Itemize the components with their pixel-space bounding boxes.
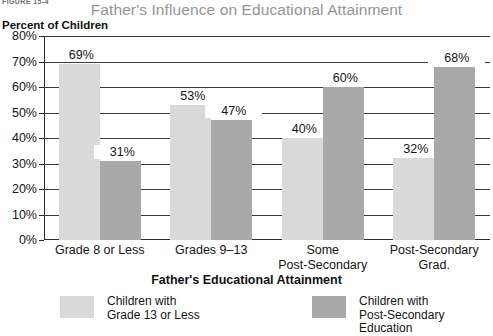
y-axis-tick-label: 30% — [12, 157, 37, 171]
gridline — [44, 138, 490, 139]
bar[interactable] — [282, 138, 323, 240]
bar[interactable] — [170, 105, 211, 240]
gridline — [44, 62, 490, 63]
y-axis-tick-mark — [39, 164, 44, 165]
x-axis-title: Father's Educational Attainment — [0, 273, 493, 287]
chart-legend: Children with Grade 13 or LessChildren w… — [0, 295, 493, 329]
y-axis-tick-mark — [39, 113, 44, 114]
y-axis-tick-label: 20% — [12, 182, 37, 196]
legend-color-swatch — [312, 296, 346, 318]
legend-label: Children with Grade 13 or Less — [107, 295, 200, 322]
y-axis-tick-label: 40% — [12, 131, 37, 145]
y-axis-tick-mark — [39, 36, 44, 37]
bar[interactable] — [393, 158, 434, 240]
plot-area: 80%70%60%50%40%30%20%10%0% 69%31%53%47%4… — [44, 36, 490, 240]
x-axis-category-label: Post-Secondary Grad. — [364, 243, 493, 272]
y-axis-tick-label: 70% — [12, 55, 37, 69]
y-axis-tick-label: 10% — [12, 208, 37, 222]
y-axis-tick-label: 50% — [12, 106, 37, 120]
bar-value-label: 53% — [164, 89, 221, 103]
gridline — [44, 36, 490, 37]
y-axis-tick-mark — [39, 62, 44, 63]
bar[interactable] — [100, 161, 141, 240]
bar[interactable] — [323, 87, 364, 240]
bar-value-label: 31% — [94, 145, 151, 159]
y-axis-tick-mark — [39, 87, 44, 88]
bar-value-label: 47% — [205, 104, 262, 118]
y-axis-tick-label: 60% — [12, 80, 37, 94]
y-axis-tick-label: 80% — [12, 29, 37, 43]
chart-title: Father's Influence on Educational Attain… — [0, 1, 493, 19]
bar[interactable] — [211, 120, 252, 240]
gridline — [44, 87, 490, 88]
legend-label: Children with Post-Secondary Education — [359, 295, 493, 336]
y-axis-tick-mark — [39, 138, 44, 139]
gridline — [44, 113, 490, 114]
bar-value-label: 68% — [428, 51, 485, 65]
bar[interactable] — [434, 67, 475, 240]
y-axis-tick-mark — [39, 240, 44, 241]
legend-item[interactable]: Children with Post-Secondary Education — [312, 295, 493, 336]
legend-item[interactable]: Children with Grade 13 or Less — [60, 295, 200, 322]
bar-value-label: 69% — [53, 48, 110, 62]
y-axis-tick-mark — [39, 215, 44, 216]
bar-value-label: 60% — [317, 71, 374, 85]
y-axis-tick-mark — [39, 189, 44, 190]
legend-color-swatch — [60, 296, 94, 318]
